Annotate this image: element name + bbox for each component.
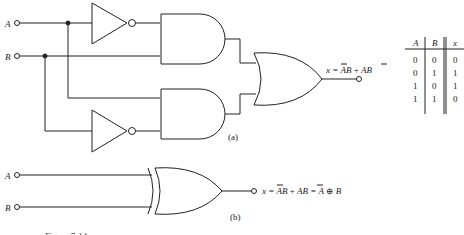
truth-table: A B x 0 0 0 0 1 1 1 0 1 1 1 0 (412, 38, 458, 104)
svg-text:1: 1 (432, 94, 437, 104)
svg-text:1: 1 (432, 68, 437, 78)
svg-text:0: 0 (453, 55, 458, 65)
svg-text:0: 0 (453, 94, 458, 104)
svg-text:A: A (4, 19, 11, 29)
svg-text:0: 0 (432, 81, 437, 91)
svg-text:x = AB + AB = A ⊕ B: x = AB + AB = A ⊕ B (261, 186, 342, 196)
svg-text:1: 1 (413, 94, 418, 104)
svg-text:B: B (432, 38, 438, 48)
svg-text:0: 0 (432, 55, 437, 65)
svg-text:B: B (5, 52, 11, 62)
input-b-terminal: B (5, 52, 20, 62)
svg-text:A: A (412, 38, 419, 48)
xor-gate (148, 168, 222, 215)
svg-text:x: x (452, 38, 457, 48)
xor-circuit-diagram: A B x = AB + AB (a) A B (0, 0, 464, 235)
svg-text:A: A (4, 171, 11, 181)
output-expression-a: x = AB + AB (325, 65, 372, 75)
label-b: (b) (230, 212, 241, 222)
output-expression-b: x = AB + AB = A ⊕ B (261, 186, 342, 196)
figure-caption: Figure 7-14 (45, 231, 88, 235)
output-x-terminal-b (252, 189, 257, 194)
not-gate-top (92, 3, 160, 44)
not-gate-bottom (92, 110, 160, 152)
svg-text:1: 1 (453, 68, 458, 78)
svg-text:1: 1 (453, 81, 458, 91)
input-b-terminal-b: B (5, 203, 20, 213)
input-a-terminal: A (4, 19, 20, 29)
svg-text:B: B (5, 203, 11, 213)
output-x-terminal (357, 77, 362, 82)
svg-text:0: 0 (413, 55, 418, 65)
input-a-terminal-b: A (4, 171, 20, 181)
label-a: (a) (228, 132, 238, 142)
svg-text:0: 0 (413, 68, 418, 78)
or-gate (254, 53, 322, 106)
svg-text:x = AB + AB: x = AB + AB (325, 65, 372, 75)
and-gate-bottom (161, 89, 225, 139)
svg-text:1: 1 (413, 81, 418, 91)
and-gate-top (161, 14, 225, 64)
